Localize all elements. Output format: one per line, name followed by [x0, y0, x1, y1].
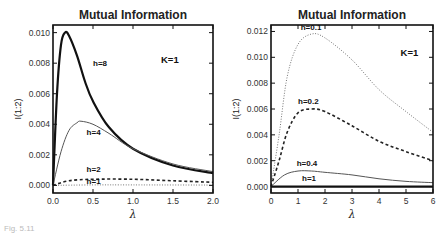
series-h-8: [53, 32, 213, 185]
x-tick-label: 6: [431, 196, 436, 206]
series-label: h=4: [87, 128, 102, 137]
y-tick-label: 0.004: [29, 119, 51, 129]
series-label: h=2: [87, 165, 102, 174]
y-tick-label: 0.010: [29, 28, 51, 38]
x-tick-label: 0.0: [47, 196, 59, 206]
y-tick-label: 0.004: [247, 130, 269, 140]
chart-title: Mutual Information: [79, 8, 187, 22]
series-h-4: [53, 121, 213, 185]
y-tick-label: 0.000: [247, 182, 269, 192]
x-axis-label: λ: [348, 208, 356, 221]
y-tick-label: 0.008: [29, 58, 51, 68]
series-label: h=1: [87, 177, 102, 186]
y-tick-label: 0.010: [247, 52, 269, 62]
y-tick-label: 0.002: [247, 156, 269, 166]
x-tick-label: 1: [296, 196, 301, 206]
y-tick-label: 0.008: [247, 78, 269, 88]
y-tick-label: 0.000: [29, 180, 51, 190]
x-tick-label: 5: [404, 196, 409, 206]
x-tick-label: 2.0: [207, 196, 219, 206]
series-label: h=0.4: [297, 159, 318, 168]
chart-right: Mutual Informationh=0.1h=0.2h=0.4h=1K=10…: [231, 8, 436, 221]
x-tick-label: 1.5: [167, 196, 179, 206]
x-tick-label: 0.5: [87, 196, 99, 206]
k-annotation: K=1: [161, 54, 179, 65]
x-tick-label: 4: [377, 196, 382, 206]
chart-title: Mutual Information: [298, 8, 406, 22]
x-axis-label: λ: [129, 208, 137, 221]
y-axis-label: I(1:2): [231, 98, 241, 119]
figure: Mutual Informationh=8h=4h=2h=1K=10.00.51…: [0, 0, 448, 235]
y-axis-label: I(1:2): [13, 98, 23, 119]
y-tick-label: 0.006: [247, 104, 269, 114]
y-tick-label: 0.012: [247, 26, 269, 36]
series-h-0-4: [271, 171, 433, 187]
series-h-2: [53, 179, 213, 185]
x-tick-label: 3: [350, 196, 355, 206]
figure-caption: Fig. 5.11: [4, 224, 35, 233]
series-label: h=1: [302, 174, 317, 183]
y-tick-label: 0.006: [29, 89, 51, 99]
series-label: h=0.2: [298, 97, 319, 106]
y-tick-label: 0.002: [29, 150, 51, 160]
series-label: h=8: [93, 59, 108, 68]
x-tick-label: 0: [269, 196, 274, 206]
x-tick-label: 1.0: [127, 196, 139, 206]
chart-left: Mutual Informationh=8h=4h=2h=1K=10.00.51…: [13, 8, 219, 221]
x-tick-label: 2: [323, 196, 328, 206]
k-annotation: K=1: [401, 47, 419, 58]
